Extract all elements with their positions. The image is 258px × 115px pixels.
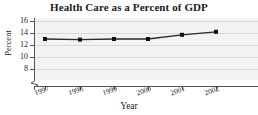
y-tick-label-14: 14	[14, 29, 28, 37]
gridline-10	[35, 57, 258, 58]
plot-area	[35, 18, 258, 80]
y-axis-line	[34, 18, 35, 80]
y-tick-label-8: 8	[14, 65, 28, 73]
chart-title: Health Care as a Percent of GDP	[0, 1, 258, 13]
gridline-8	[35, 69, 258, 70]
y-tick-label-10: 10	[14, 53, 28, 61]
x-axis-title: Year	[0, 101, 258, 111]
y-tick-16	[30, 21, 35, 22]
y-tick-label-16: 16	[14, 17, 28, 25]
y-tick-label-12: 12	[14, 41, 28, 49]
gridline-12	[35, 45, 258, 46]
health-care-gdp-line-chart: Health Care as a Percent of GDP 16 14 12…	[0, 0, 258, 115]
gridline-16	[35, 21, 258, 22]
y-tick-12	[30, 45, 35, 46]
gridline-14	[35, 33, 258, 34]
y-tick-14	[30, 33, 35, 34]
y-axis-title: Percent	[3, 17, 13, 69]
y-tick-10	[30, 57, 35, 58]
y-tick-8	[30, 69, 35, 70]
